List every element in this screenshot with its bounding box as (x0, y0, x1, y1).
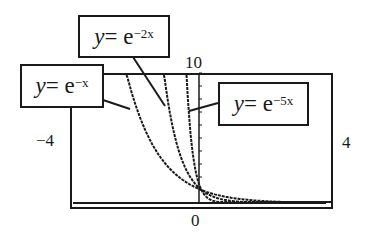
leader-line-e-neg-2x (133, 57, 165, 106)
label-e-neg-5x: y = e−5x (218, 82, 309, 126)
label-eq: = e (244, 91, 273, 117)
label-lhs: y (36, 73, 46, 99)
x-min-label: −4 (36, 132, 54, 149)
label-eq: = e (46, 73, 75, 99)
label-lhs: y (94, 24, 104, 50)
label-e-neg-x: y = e−x (20, 64, 104, 108)
leader-line-e-neg-5x (189, 103, 218, 111)
y-max-label: 10 (185, 54, 202, 71)
label-eq: = e (104, 24, 133, 50)
origin-label: 0 (191, 212, 200, 229)
label-exponent: −x (75, 75, 89, 91)
x-max-label: 4 (342, 134, 351, 151)
chart-canvas (0, 0, 366, 240)
label-exponent: −2x (133, 26, 153, 42)
label-lhs: y (234, 91, 244, 117)
label-exponent: −5x (273, 93, 293, 109)
label-e-neg-2x: y = e−2x (78, 15, 170, 58)
leader-line-e-neg-x (103, 100, 130, 109)
